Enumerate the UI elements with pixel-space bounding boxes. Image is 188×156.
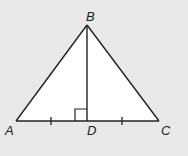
vertex-label-a: A (5, 124, 14, 137)
vertex-label-b: B (86, 10, 95, 23)
geometry-diagram: B A D C (0, 0, 188, 156)
vertex-label-d: D (87, 124, 96, 137)
vertex-label-c: C (161, 124, 170, 137)
